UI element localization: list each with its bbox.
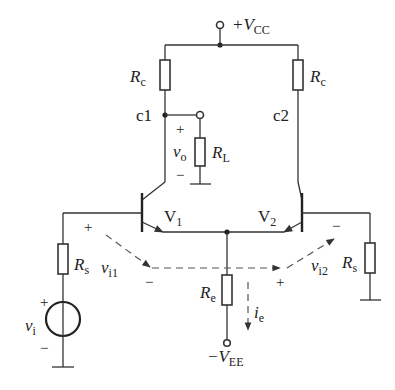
vi1-plus: +	[84, 219, 92, 235]
resistor-rs-left	[58, 244, 68, 274]
ie-label: ie	[254, 303, 264, 325]
rc-left-label: Rc	[129, 67, 146, 89]
vi2-plus: +	[276, 274, 284, 290]
resistor-rs-right	[365, 243, 375, 273]
resistor-rl	[195, 138, 205, 166]
c1-label: c1	[136, 106, 152, 125]
vo-plus: +	[176, 121, 184, 137]
transistor-v1	[142, 182, 227, 232]
resistor-rc-right	[293, 60, 303, 90]
vi2-minus: −	[332, 218, 340, 234]
v2-label: V2	[258, 207, 276, 229]
vi1-minus: −	[145, 274, 153, 290]
differential-amplifier-diagram: +VCC Rc Rc c1 c2 RL + vo − V1 V2 Rs	[0, 0, 395, 390]
vi1-dashed-arrow	[106, 235, 150, 267]
v1-label: V1	[164, 207, 182, 229]
vo-minus: −	[176, 167, 184, 183]
vcc-label: +VCC	[232, 15, 270, 37]
vi-plus: +	[40, 294, 48, 310]
vi-label: vi	[25, 316, 37, 338]
vee-label: −VEE	[207, 347, 244, 369]
vi-minus: −	[40, 340, 48, 356]
rs-left-label: Rs	[73, 255, 89, 277]
rs-right-label: Rs	[341, 253, 357, 275]
vo-label: vo	[173, 142, 187, 164]
rl-label: RL	[211, 143, 230, 165]
c2-label: c2	[273, 106, 289, 125]
output-terminal	[197, 112, 204, 119]
vee-terminal	[224, 340, 231, 347]
resistor-rc-left	[160, 60, 170, 90]
re-label: Re	[199, 283, 216, 305]
vi2-label: vi2	[311, 256, 328, 278]
vi1-label: vi1	[101, 258, 118, 280]
rc-right-label: Rc	[309, 67, 326, 89]
vcc-terminal	[217, 22, 224, 48]
resistor-re	[222, 275, 232, 305]
